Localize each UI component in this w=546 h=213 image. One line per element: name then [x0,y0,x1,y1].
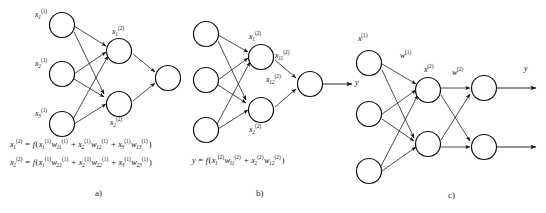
label-a-hidden-1: x1(2) [112,28,125,36]
panel-label-b: b) [256,188,264,198]
label-c-weight-2: w(2) [452,69,464,77]
label-a-hidden-2: x2(2) [110,119,123,127]
label-c-output-y: y [524,65,528,73]
panel-label-c: c) [448,190,455,200]
formula-b-output: y = f(x1(2)w11(2) + x2(2)w12(2)) [192,157,285,165]
label-b-hidden-1: x1(2) [249,33,262,41]
label-b-hidden-2: x2(2) [249,126,262,134]
label-c-weight-1: w(1) [400,52,412,60]
neural-network-figure: x1(1) x2(1) x3(1) x1(2) x2(2) x1(2) = f(… [0,0,546,213]
formula-a-hidden-2: x2(2) = f(x1(1)w21(1) + x2(1)w22(1) + x3… [10,159,152,167]
label-b-weight-11: x11(2) [275,52,290,60]
label-a-input-2: x2(1) [35,60,48,68]
formula-a-hidden-1: x1(2) = f(x1(1)w11(1) + x2(1)w12(1) + x3… [10,141,152,149]
label-c-input-vector: x(1) [358,35,368,43]
label-a-input-3: x3(1) [35,110,48,118]
label-b-weight-12: x12(2) [266,76,281,84]
figure-canvas [0,0,546,213]
label-a-input-1: x1(1) [35,11,48,19]
panel-c-network [357,51,537,184]
label-b-output-y: y [355,79,359,87]
label-c-hidden-vector: x(2) [424,66,434,74]
panel-label-a: a) [95,188,102,198]
